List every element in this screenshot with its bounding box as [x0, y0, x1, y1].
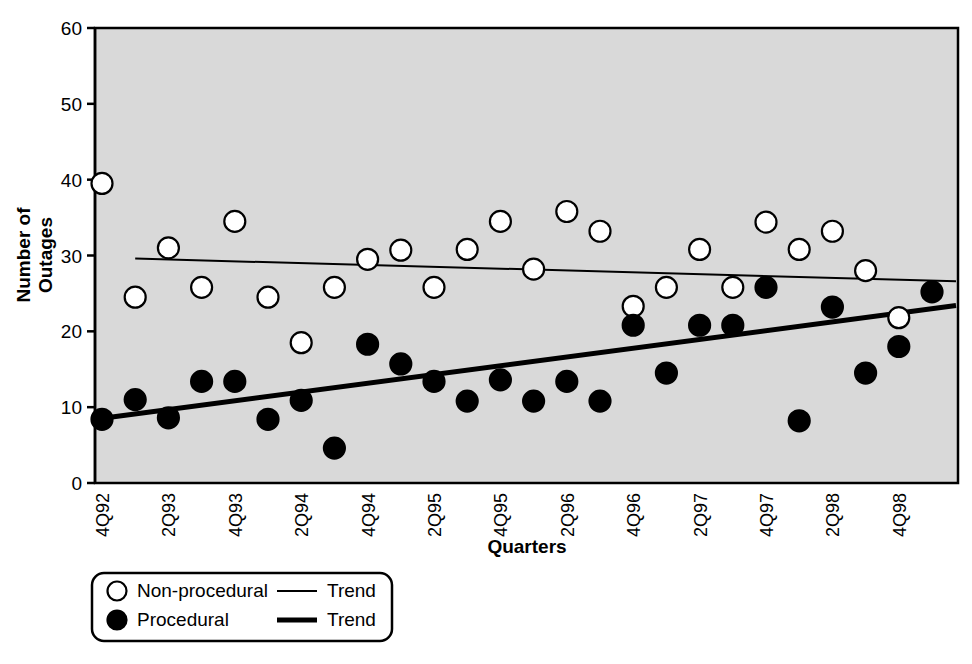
- data-point-non-procedural: [623, 296, 644, 317]
- plot-area-background: [95, 28, 958, 483]
- data-point-non-procedural: [125, 287, 146, 308]
- y-axis-title: Number of Outages: [13, 207, 56, 303]
- legend-label-procedural: Procedural: [137, 609, 229, 630]
- x-tick-2Q94: 2Q94: [292, 493, 312, 537]
- data-point-procedural: [888, 336, 909, 357]
- y-tick-10: 10: [61, 397, 82, 418]
- x-tick-label: 4Q96: [624, 493, 644, 537]
- data-point-procedural: [523, 391, 544, 412]
- x-axis-title: Quarters: [487, 536, 566, 557]
- data-point-non-procedural: [324, 277, 345, 298]
- x-tick-4Q95: 4Q95: [491, 493, 511, 537]
- data-point-procedural: [756, 277, 777, 298]
- y-axis-title-line-2: Outages: [35, 217, 56, 293]
- x-tick-label: 4Q94: [359, 493, 379, 537]
- data-point-procedural: [258, 409, 279, 430]
- x-axis-tick-labels: 4Q922Q934Q932Q944Q942Q954Q952Q964Q962Q97…: [93, 493, 910, 537]
- x-tick-4Q96: 4Q96: [624, 493, 644, 537]
- data-point-non-procedural: [888, 307, 909, 328]
- x-tick-2Q96: 2Q96: [558, 493, 578, 537]
- data-point-procedural: [92, 409, 113, 430]
- data-point-non-procedural: [689, 239, 710, 260]
- x-tick-4Q97: 4Q97: [757, 493, 777, 537]
- y-tick-50: 50: [61, 94, 82, 115]
- data-point-procedural: [125, 389, 146, 410]
- data-point-procedural: [689, 315, 710, 336]
- legend-marker-non-procedural: [108, 582, 127, 601]
- data-point-procedural: [191, 371, 212, 392]
- data-point-non-procedural: [756, 212, 777, 233]
- data-point-non-procedural: [590, 221, 611, 242]
- x-tick-4Q98: 4Q98: [890, 493, 910, 537]
- x-tick-2Q95: 2Q95: [425, 493, 445, 537]
- data-point-procedural: [224, 371, 245, 392]
- data-point-procedural: [822, 297, 843, 318]
- data-point-procedural: [722, 315, 743, 336]
- legend-label-non-procedural: Non-procedural: [137, 580, 268, 601]
- data-point-procedural: [390, 353, 411, 374]
- data-point-procedural: [922, 281, 943, 302]
- legend-marker-procedural: [108, 611, 127, 630]
- x-tick-4Q93: 4Q93: [226, 493, 246, 537]
- x-tick-4Q94: 4Q94: [359, 493, 379, 537]
- x-tick-4Q92: 4Q92: [93, 493, 113, 537]
- y-tick-60: 60: [61, 18, 82, 39]
- data-point-non-procedural: [722, 277, 743, 298]
- chart-figure: 0102030405060 4Q922Q934Q932Q944Q942Q954Q…: [0, 0, 972, 664]
- x-tick-2Q97: 2Q97: [691, 493, 711, 537]
- data-point-non-procedural: [656, 277, 677, 298]
- y-tick-30: 30: [61, 246, 82, 267]
- data-point-procedural: [556, 371, 577, 392]
- chart-legend: Non-proceduralTrendProceduralTrend: [92, 573, 392, 641]
- data-point-non-procedural: [258, 287, 279, 308]
- data-point-procedural: [324, 438, 345, 459]
- data-point-procedural: [590, 391, 611, 412]
- y-tick-0: 0: [71, 473, 82, 494]
- data-point-procedural: [291, 390, 312, 411]
- data-point-procedural: [357, 334, 378, 355]
- x-tick-label: 2Q95: [425, 493, 445, 537]
- x-tick-label: 2Q94: [292, 493, 312, 537]
- x-tick-2Q93: 2Q93: [159, 493, 179, 537]
- data-point-procedural: [424, 371, 445, 392]
- data-point-procedural: [490, 369, 511, 390]
- x-tick-label: 2Q93: [159, 493, 179, 537]
- x-tick-label: 4Q93: [226, 493, 246, 537]
- data-point-non-procedural: [855, 260, 876, 281]
- data-point-procedural: [789, 410, 810, 431]
- y-tick-20: 20: [61, 321, 82, 342]
- outages-scatter-chart: 0102030405060 4Q922Q934Q932Q944Q942Q954Q…: [0, 0, 972, 664]
- data-point-procedural: [623, 315, 644, 336]
- data-point-non-procedural: [424, 277, 445, 298]
- data-point-non-procedural: [490, 211, 511, 232]
- data-point-non-procedural: [457, 239, 478, 260]
- x-tick-label: 2Q96: [558, 493, 578, 537]
- x-tick-2Q98: 2Q98: [823, 493, 843, 537]
- x-tick-label: 4Q97: [757, 493, 777, 537]
- x-tick-label: 4Q95: [491, 493, 511, 537]
- data-point-non-procedural: [822, 221, 843, 242]
- data-point-non-procedural: [92, 173, 113, 194]
- data-point-non-procedural: [191, 277, 212, 298]
- data-point-non-procedural: [357, 249, 378, 270]
- data-point-non-procedural: [390, 240, 411, 261]
- data-point-procedural: [855, 363, 876, 384]
- x-tick-label: 2Q97: [691, 493, 711, 537]
- x-tick-label: 4Q98: [890, 493, 910, 537]
- data-point-procedural: [656, 363, 677, 384]
- legend-label-trend-thin: Trend: [327, 580, 376, 601]
- data-point-non-procedural: [523, 259, 544, 280]
- y-axis-title-line-1: Number of: [13, 207, 34, 303]
- x-tick-label: 2Q98: [823, 493, 843, 537]
- data-point-non-procedural: [224, 211, 245, 232]
- y-tick-40: 40: [61, 170, 82, 191]
- x-tick-label: 4Q92: [93, 493, 113, 537]
- y-axis-tick-labels: 0102030405060: [61, 18, 95, 494]
- data-point-non-procedural: [291, 332, 312, 353]
- data-point-procedural: [457, 391, 478, 412]
- data-point-non-procedural: [789, 239, 810, 260]
- data-point-non-procedural: [556, 201, 577, 222]
- data-point-non-procedural: [158, 237, 179, 258]
- data-point-procedural: [158, 407, 179, 428]
- legend-label-trend-thick: Trend: [327, 609, 376, 630]
